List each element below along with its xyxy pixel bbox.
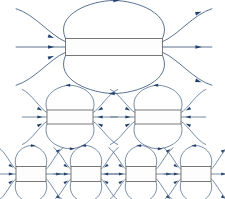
magnet-body (16, 167, 46, 182)
magnet-body (47, 110, 93, 124)
magnet-body (126, 167, 156, 182)
magnet-body (66, 39, 163, 56)
magnetic-field-diagram (0, 0, 225, 199)
figure-root (0, 0, 225, 199)
magnet-body (135, 110, 181, 124)
magnet-body (181, 167, 211, 182)
magnet-body (71, 167, 101, 182)
